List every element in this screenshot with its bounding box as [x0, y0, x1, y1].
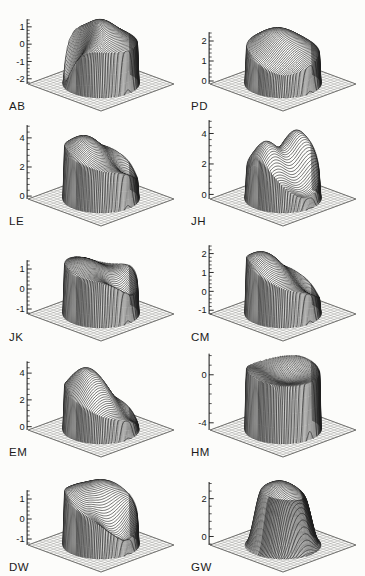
- z-axis-tick-label: 0: [19, 39, 24, 49]
- z-axis: 10-1-2: [16, 19, 31, 84]
- panel-label: DW: [9, 561, 29, 573]
- panel-label: EM: [9, 446, 27, 458]
- panel-em: 420EM: [0, 346, 182, 461]
- z-axis: 210: [201, 32, 213, 86]
- z-axis-tick-label: 0: [19, 514, 24, 524]
- z-axis-tick-label: 1: [19, 265, 24, 275]
- z-axis-tick-label: 0: [201, 370, 206, 380]
- z-axis-tick-label: -1: [16, 534, 24, 544]
- z-axis-tick-label: 1: [201, 56, 206, 66]
- z-axis-tick-label: 0: [201, 190, 206, 200]
- figure-page: 10-1-2AB210PD420LE420JH10-1JK210-1CM420E…: [0, 0, 365, 576]
- z-axis-tick-label: -1: [16, 57, 24, 67]
- z-axis-tick-label: 4: [201, 129, 206, 139]
- z-axis: 420: [201, 120, 213, 200]
- z-axis-tick-label: 1: [19, 22, 24, 32]
- z-axis-tick-label: 0: [201, 287, 206, 297]
- panel-label: GW: [191, 561, 212, 573]
- panel-jh: 420JH: [182, 115, 365, 230]
- z-axis: 210-1: [198, 246, 213, 316]
- surface-plot-cm: 210-1: [182, 230, 365, 345]
- z-axis-tick-label: 0: [201, 76, 206, 86]
- panel-jk: 10-1JK: [0, 230, 182, 345]
- z-axis-tick-label: 2: [19, 395, 24, 405]
- surface-plot-pd: 210: [182, 0, 365, 115]
- surface-plot-ab: 10-1-2: [0, 0, 182, 115]
- surface-plot-le: 420: [0, 115, 182, 230]
- panel-label: JK: [9, 331, 23, 343]
- panel-ab: 10-1-2AB: [0, 0, 182, 115]
- panel-le: 420LE: [0, 115, 182, 230]
- z-axis-tick-label: 4: [19, 368, 24, 378]
- panel-hm: 0-4HM: [182, 346, 365, 461]
- z-axis-tick-label: -1: [198, 306, 206, 316]
- z-axis-tick-label: -1: [16, 305, 24, 315]
- z-axis: 20: [201, 482, 213, 545]
- z-axis-tick-label: 0: [19, 285, 24, 295]
- z-axis-tick-label: 2: [201, 159, 206, 169]
- surface-plot-jh: 420: [182, 115, 365, 230]
- z-axis: 420: [19, 361, 31, 432]
- z-axis: 420: [19, 125, 31, 201]
- panel-gw: 20GW: [182, 461, 365, 576]
- panel-label: CM: [191, 331, 210, 343]
- surface-plot-hm: 0-4: [182, 346, 365, 461]
- z-axis-tick-label: 1: [201, 268, 206, 278]
- surface-plot-gw: 20: [182, 461, 365, 576]
- z-axis-tick-label: 2: [201, 249, 206, 259]
- z-axis: 10-1: [16, 490, 31, 545]
- z-axis-tick-label: 2: [201, 494, 206, 504]
- z-axis-tick-label: 0: [19, 421, 24, 431]
- z-axis: 10-1: [16, 261, 31, 315]
- surface-plot-dw: 10-1: [0, 461, 182, 576]
- panel-dw: 10-1DW: [0, 461, 182, 576]
- surface-plot-em: 420: [0, 346, 182, 461]
- z-axis-tick-label: 2: [201, 36, 206, 46]
- z-axis-tick-label: 0: [19, 191, 24, 201]
- surface-plot-jk: 10-1: [0, 230, 182, 345]
- surface-plot-grid: 10-1-2AB210PD420LE420JH10-1JK210-1CM420E…: [0, 0, 365, 576]
- panel-label: HM: [191, 446, 210, 458]
- panel-label: PD: [191, 100, 208, 112]
- z-axis: 0-4: [198, 353, 213, 429]
- z-axis-tick-label: -4: [198, 418, 206, 428]
- panel-pd: 210PD: [182, 0, 365, 115]
- panel-label: AB: [9, 100, 25, 112]
- z-axis-tick-label: 4: [19, 133, 24, 143]
- panel-label: LE: [9, 215, 24, 227]
- z-axis-tick-label: 1: [19, 494, 24, 504]
- panel-cm: 210-1CM: [182, 230, 365, 345]
- z-axis-tick-label: 0: [201, 531, 206, 541]
- z-axis-tick-label: 2: [19, 162, 24, 172]
- panel-label: JH: [191, 215, 206, 227]
- z-axis-tick-label: -2: [16, 74, 24, 84]
